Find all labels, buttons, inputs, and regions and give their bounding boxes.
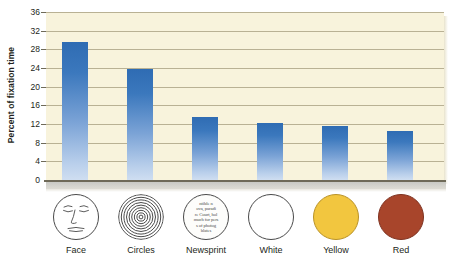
concentric-circles-icon <box>118 194 164 240</box>
stimulus-icon-white <box>238 192 304 242</box>
y-tick-label: 12 <box>4 119 40 129</box>
bar-red <box>387 131 413 180</box>
y-tick-mark <box>41 105 46 106</box>
yellow-disc-icon <box>313 194 359 240</box>
stimulus-icon-yellow <box>303 192 369 242</box>
y-tick-label: 28 <box>4 44 40 54</box>
y-tick-label: 4 <box>4 156 40 166</box>
bar-circles <box>127 69 153 180</box>
stimulus-icon-circles <box>108 192 174 242</box>
gridline <box>46 31 444 32</box>
axis-shadow-slab <box>46 182 446 189</box>
face-icon <box>53 194 99 240</box>
y-tick-mark <box>41 161 46 162</box>
white-disc-icon <box>248 194 294 240</box>
y-tick-mark <box>41 87 46 88</box>
x-tick-label-red: Red <box>358 245 444 255</box>
newsprint-icon: ntible n ova, paradi re Court, hol much … <box>183 194 229 240</box>
newsprint-line: s of photog <box>184 223 229 229</box>
bar-newsprint <box>192 117 218 180</box>
bar-white <box>257 123 283 180</box>
stimulus-icon-red <box>368 192 434 242</box>
newsprint-text: ntible n ova, paradi re Court, hol much … <box>184 200 229 233</box>
newsprint-line: blates <box>184 228 229 234</box>
newsprint-line: much for pers <box>184 217 229 223</box>
y-tick-label: 0 <box>4 175 40 185</box>
bar-face <box>62 42 88 180</box>
gridline <box>46 68 444 69</box>
y-tick-label: 32 <box>4 26 40 36</box>
newsprint-line: re Court, hol <box>184 211 229 217</box>
newsprint-line: ntible n <box>184 200 229 206</box>
plot-area <box>46 12 444 180</box>
y-tick-label: 36 <box>4 7 40 17</box>
y-tick-mark <box>41 31 46 32</box>
gridline <box>46 12 444 13</box>
stimulus-icon-face <box>43 192 109 242</box>
y-tick-mark <box>41 12 46 13</box>
bar-yellow <box>322 126 348 180</box>
gridline <box>46 143 444 144</box>
gridline <box>46 87 444 88</box>
y-tick-mark <box>41 143 46 144</box>
gridline <box>46 105 444 106</box>
y-tick-mark <box>41 49 46 50</box>
gridline <box>46 49 444 50</box>
y-tick-mark <box>41 68 46 69</box>
y-tick-label: 8 <box>4 138 40 148</box>
stimulus-icon-newsprint: ntible n ova, paradi re Court, hol much … <box>173 192 239 242</box>
red-disc-icon <box>378 194 424 240</box>
y-tick-label: 24 <box>4 63 40 73</box>
y-tick-mark <box>41 124 46 125</box>
bar-chart-figure: Percent of fixation time 36 32 28 24 20 … <box>0 0 476 268</box>
y-tick-label: 20 <box>4 82 40 92</box>
y-tick-label: 16 <box>4 100 40 110</box>
gridline <box>46 161 444 162</box>
gridline <box>46 124 444 125</box>
newsprint-line: ova, paradi <box>184 206 229 212</box>
